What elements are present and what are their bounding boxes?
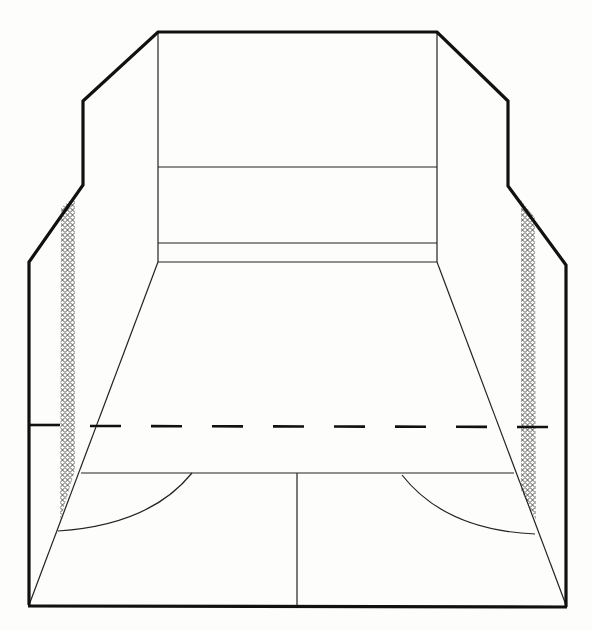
left-service-box-arc bbox=[58, 473, 192, 531]
court-drawing bbox=[0, 0, 592, 630]
right-service-box-arc bbox=[402, 475, 535, 534]
floor bbox=[29, 262, 566, 606]
out-line bbox=[29, 425, 550, 427]
left-mesh-panel bbox=[60, 196, 75, 520]
court-diagram bbox=[0, 0, 592, 630]
front-wall bbox=[158, 32, 437, 262]
right-mesh-panel bbox=[521, 200, 536, 520]
